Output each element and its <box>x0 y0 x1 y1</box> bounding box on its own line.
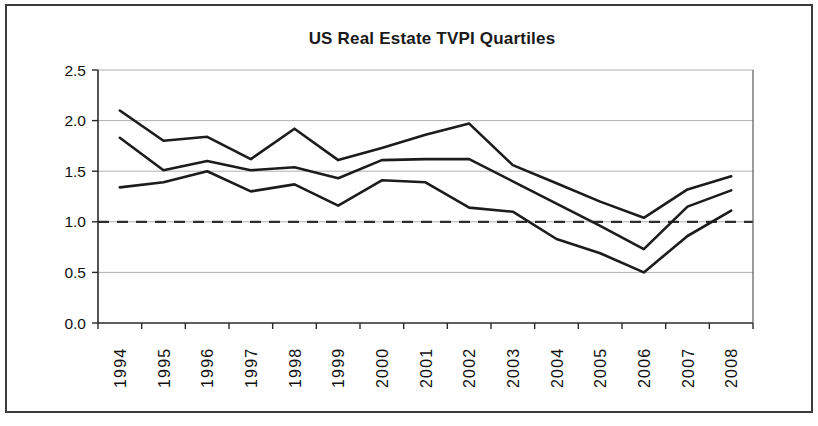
y-axis-label: 0.0 <box>64 315 86 332</box>
y-axis-label: 1.0 <box>64 213 86 230</box>
x-axis-label: 2001 <box>418 348 435 388</box>
x-axis-label: 1999 <box>330 348 347 388</box>
upper-quartile-line <box>120 111 731 218</box>
x-axis-label: 2000 <box>374 348 391 388</box>
y-axis-label: 0.5 <box>64 264 86 281</box>
figure-page: US Real Estate TVPI Quartiles 0.00.51.01… <box>0 0 818 426</box>
x-axis-label: 2005 <box>592 348 609 388</box>
y-axis-label: 2.5 <box>64 62 86 79</box>
x-axis-label: 2008 <box>723 348 740 388</box>
x-axis-label: 2007 <box>680 348 697 388</box>
x-axis-label: 1998 <box>287 348 304 388</box>
x-axis-label: 2002 <box>461 348 478 388</box>
x-axis-label: 2004 <box>549 348 566 388</box>
x-axis-label: 1996 <box>199 348 216 388</box>
y-axis-label: 2.0 <box>64 112 86 129</box>
tvpi-quartiles-line-chart: 0.00.51.01.52.02.51994199519961997199819… <box>0 0 818 426</box>
x-axis-label: 1994 <box>112 348 129 388</box>
x-axis-label: 1997 <box>243 348 260 388</box>
x-axis-label: 2006 <box>636 348 653 388</box>
y-axis-label: 1.5 <box>64 163 86 180</box>
x-axis-label: 2003 <box>505 348 522 388</box>
x-axis-label: 1995 <box>156 348 173 388</box>
median-line <box>120 138 731 249</box>
